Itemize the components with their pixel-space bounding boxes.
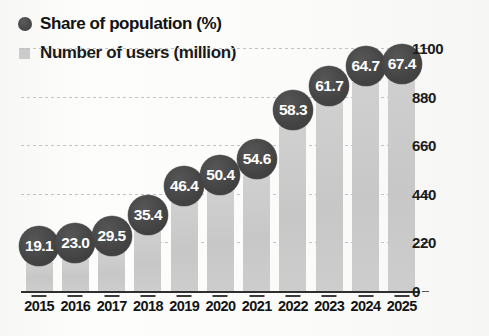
bar (316, 102, 343, 291)
x-axis-tick (358, 295, 373, 297)
bar-cell (21, 48, 57, 291)
bar-cell (94, 48, 130, 291)
x-axis-label: 2024 (347, 298, 383, 314)
bar (352, 82, 379, 291)
x-axis-tick (394, 295, 409, 297)
bar-cell (384, 48, 420, 291)
bar (279, 126, 306, 291)
bar-cell (57, 48, 93, 291)
x-axis-label: 2015 (21, 298, 57, 314)
legend-circle-marker-icon (18, 17, 32, 31)
x-axis-tick (140, 295, 155, 297)
x-axis-label: 2025 (384, 298, 420, 314)
bar (26, 262, 53, 291)
x-axis-tick (68, 295, 83, 297)
x-axis-label: 2020 (202, 298, 238, 314)
bar (134, 231, 161, 291)
x-axis-tick (285, 295, 300, 297)
bar-cell (275, 48, 311, 291)
y-axis-label: 880 (412, 88, 436, 105)
plot-area: 19.123.029.535.446.450.454.658.361.764.7… (21, 48, 420, 293)
chart-container: Share of population (%) Number of users … (0, 0, 489, 336)
x-axis-tick (249, 295, 264, 297)
x-axis-line (21, 291, 420, 293)
x-axis-tick (213, 295, 228, 297)
x-axis-tick (104, 295, 119, 297)
bar (98, 252, 125, 291)
x-axis-label: 2023 (311, 298, 347, 314)
x-axis-label: 2018 (130, 298, 166, 314)
bar (243, 175, 270, 291)
y-axis-label: 660 (412, 137, 436, 154)
bar-cell (202, 48, 238, 291)
bar-cell (311, 48, 347, 291)
x-axis-label: 2016 (57, 298, 93, 314)
bar-cell (239, 48, 275, 291)
x-axis-tick (32, 295, 47, 297)
bar-series-number-of-users (21, 48, 420, 291)
y-axis-label: 440 (412, 185, 436, 202)
x-axis-label: 2019 (166, 298, 202, 314)
bar (171, 202, 198, 291)
x-axis-label: 2017 (94, 298, 130, 314)
bar-cell (347, 48, 383, 291)
bar-cell (130, 48, 166, 291)
y-axis-tick (422, 291, 429, 292)
y-axis-label: 1100 (412, 40, 443, 57)
bar-cell (166, 48, 202, 291)
x-axis-labels-group: 2015201620172018201920202021202220232024… (21, 298, 420, 314)
legend-item-share: Share of population (%) (18, 14, 236, 34)
x-axis-tick (177, 295, 192, 297)
x-axis-label: 2022 (275, 298, 311, 314)
y-axis-label: 220 (412, 234, 436, 251)
bar (207, 191, 234, 291)
bar (62, 259, 89, 291)
x-axis-tick (322, 295, 337, 297)
legend-label-share: Share of population (%) (40, 14, 222, 34)
x-axis-label: 2021 (239, 298, 275, 314)
y-axis-label: 0 (412, 283, 420, 300)
